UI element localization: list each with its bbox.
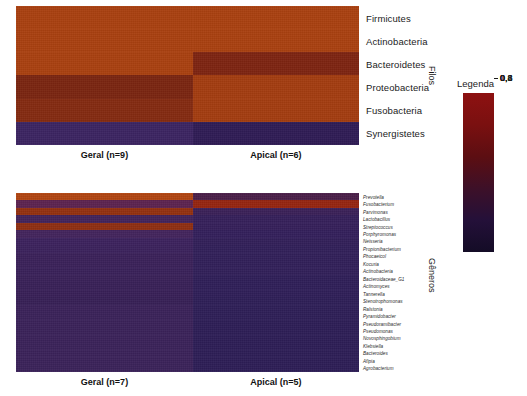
heatmap-cell [193,364,359,371]
heatmap-cell [193,282,359,289]
heatmap-cell [193,342,359,349]
heatmap-generos-grid [16,193,359,372]
heatmap-cell [16,200,193,207]
heatmap-cell [16,327,193,334]
heatmap-cell [16,75,193,98]
heatmap-cell [16,342,193,349]
row-label-genus: Prevotella [363,194,384,199]
heatmap-panel-generos [16,193,359,372]
heatmap-cell [16,122,193,145]
axis-title-filos: Filos [427,66,437,85]
x-group-label-generos-geral: Geral (n=7) [16,377,193,387]
row-label-genus: Klebsiella [363,343,383,348]
row-label-phylum: Bacteroidetes [366,58,425,69]
heatmap-cell [16,208,193,215]
heatmap-cell [193,223,359,230]
row-label-genus: Actinomyces [363,284,390,289]
heatmap-cell [193,245,359,252]
row-label-genus: Porphyromonas [363,232,396,237]
heatmap-cell [16,215,193,222]
heatmap-cell [193,305,359,312]
heatmap-cell [193,6,359,29]
colorbar-gradient [463,93,494,252]
heatmap-column-apical [193,193,359,372]
heatmap-cell [16,312,193,319]
legend-title: Legenda [457,78,494,89]
heatmap-cell [193,312,359,319]
heatmap-cell [16,275,193,282]
heatmap-cell [16,238,193,245]
heatmap-column-geral [16,193,193,372]
heatmap-cell [16,230,193,237]
row-label-genus: Propionibacterium [363,246,401,251]
row-label-phylum: Actinobacteria [366,35,428,46]
heatmap-cell [193,230,359,237]
row-label-phylum: Fusobacteria [366,105,422,116]
heatmap-cell [16,364,193,371]
row-label-phylum: Synergistetes [366,128,425,139]
heatmap-cell [16,52,193,75]
heatmap-cell [193,275,359,282]
heatmap-cell [16,320,193,327]
heatmap-cell [16,350,193,357]
row-label-genus: Lactobacillus [363,217,390,222]
row-label-genus: Actinobacteria [363,269,393,274]
row-label-genus: Kocuria [363,261,379,266]
heatmap-cell [16,193,193,200]
row-label-phylum: Proteobacteria [366,82,429,93]
heatmap-cell [193,52,359,75]
heatmap-cell [193,290,359,297]
heatmap-cell [193,238,359,245]
heatmap-cell [16,99,193,122]
heatmap-cell [16,357,193,364]
heatmap-cell [193,193,359,200]
heatmap-cell [193,208,359,215]
heatmap-cell [193,215,359,222]
row-label-genus: Fusobacterium [363,202,394,207]
heatmap-cell [16,245,193,252]
heatmap-cell [193,350,359,357]
x-group-label-filos-apical: Apical (n=6) [193,150,359,160]
row-label-genus: Streptococcus [363,224,393,229]
heatmap-cell [16,268,193,275]
heatmap-cell [16,282,193,289]
heatmap-column-geral [16,6,193,145]
row-label-genus: Pyramidobacter [363,314,396,319]
heatmap-cell [193,260,359,267]
heatmap-cell [16,290,193,297]
heatmap-cell [16,260,193,267]
row-label-genus: Tannerella [363,291,385,296]
row-label-genus: Bacteroides [363,351,388,356]
axis-title-generos: Gêneros [427,258,437,293]
heatmap-cell [193,268,359,275]
heatmap-cell [16,223,193,230]
heatmap-cell [193,327,359,334]
row-label-column-generos: PrevotellaFusobacteriumParvimonasLactoba… [363,193,435,372]
heatmap-cell [193,357,359,364]
row-label-genus: Parvimonas [363,209,388,214]
heatmap-cell [193,320,359,327]
row-label-genus: Neisseria [363,239,383,244]
heatmap-filos-grid [16,6,359,145]
heatmap-column-apical [193,6,359,145]
x-group-label-filos-geral: Geral (n=9) [16,150,193,160]
row-label-genus: Novosphingobium [363,336,401,341]
x-group-label-generos-apical: Apical (n=5) [193,377,359,387]
heatmap-cell [16,297,193,304]
heatmap-cell [16,29,193,52]
row-label-genus: Ralstonia [363,306,383,311]
row-label-genus: Stenotrophomonas [363,299,403,304]
heatmap-cell [193,122,359,145]
row-label-genus: Phocaeicol [363,254,386,259]
heatmap-cell [193,253,359,260]
heatmap-cell [16,6,193,29]
heatmap-cell [193,335,359,342]
heatmap-cell [193,99,359,122]
heatmap-panel-filos [16,6,359,145]
row-label-column-filos: FirmicutesActinobacteriaBacteroidetesPro… [366,6,458,145]
legend: Legenda 10,80,60,40,20 [457,78,525,263]
colorbar-tick-label: 0 [494,73,505,83]
heatmap-cell [193,297,359,304]
row-label-genus: Pseudomonas [363,328,393,333]
heatmap-cell [193,200,359,207]
